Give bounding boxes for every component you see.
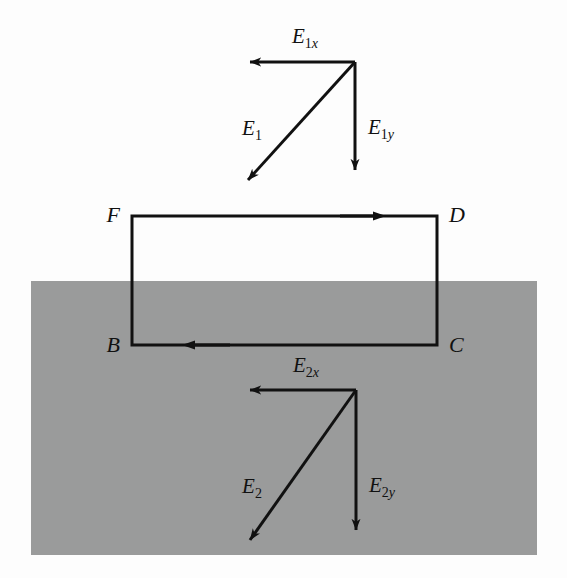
corner-label-D: D <box>448 202 465 227</box>
vector-label-E1-subnum: 1 <box>255 128 262 143</box>
vector-label-E1y-subaxis: y <box>386 127 395 142</box>
vector-label-E1y: E1y <box>367 115 395 142</box>
vector-label-E1x-subnum: 1 <box>305 36 312 51</box>
vector-label-E2y-base: E <box>368 473 382 497</box>
vector-label-E1x-base: E <box>291 24 305 48</box>
field-vectors-above-boundary: E1x E1y E1 <box>241 24 395 180</box>
vector-label-E1y-subnum: 1 <box>381 127 388 142</box>
corner-label-C: C <box>449 332 464 357</box>
dielectric-region <box>31 281 537 555</box>
vector-label-E2y-subaxis: y <box>387 485 396 500</box>
vector-label-E1: E1 <box>241 116 262 143</box>
vector-label-E2-base: E <box>241 474 255 498</box>
corner-label-F: F <box>106 202 121 227</box>
vector-label-E1x: E1x <box>291 24 319 51</box>
vector-label-E2x-subaxis: x <box>312 365 320 380</box>
physics-figure: F D C B E1x E1y E1 E2x <box>0 0 567 578</box>
vector-label-E2x-subnum: 2 <box>306 365 313 380</box>
corner-label-B: B <box>107 332 120 357</box>
vector-label-E2y-subnum: 2 <box>382 485 389 500</box>
figure-canvas: F D C B E1x E1y E1 E2x <box>0 0 567 578</box>
vector-E1 <box>248 62 355 180</box>
vector-label-E1x-subaxis: x <box>311 36 319 51</box>
vector-label-E1-base: E <box>241 116 255 140</box>
vector-label-E2-subnum: 2 <box>255 486 262 501</box>
vector-label-E2x-base: E <box>292 353 306 377</box>
vector-label-E1y-base: E <box>367 115 381 139</box>
